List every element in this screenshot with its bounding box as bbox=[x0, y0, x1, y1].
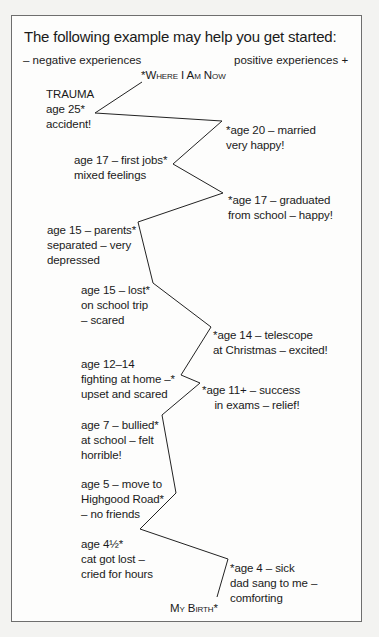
where-i-am-now-label: *Where I Am Now bbox=[141, 68, 226, 83]
event-parents-separated: age 15 – parents* separated – very depre… bbox=[47, 223, 136, 268]
event-fighting-home: age 12–14 fighting at home –* upset and … bbox=[81, 357, 175, 402]
event-exams: *age 11+ – success in exams – relief! bbox=[202, 383, 300, 413]
event-cat-lost: age 4½* cat got lost – cried for hours bbox=[81, 537, 153, 582]
event-bullied: age 7 – bullied* at school – felt horrib… bbox=[81, 418, 159, 463]
event-move-highgood: age 5 – move to Highgood Road* – no frie… bbox=[81, 477, 164, 522]
event-married: *age 20 – married very happy! bbox=[226, 123, 316, 153]
my-birth-label: My Birth* bbox=[170, 601, 218, 616]
event-trauma: TRAUMA age 25* accident! bbox=[46, 87, 94, 132]
event-graduated: *age 17 – graduated from school – happy! bbox=[228, 193, 333, 223]
event-lost-school-trip: age 15 – lost* on school trip – scared bbox=[81, 283, 150, 328]
event-telescope: *age 14 – telescope at Christmas – excit… bbox=[213, 328, 328, 358]
event-first-jobs: age 17 – first jobs* mixed feelings bbox=[74, 153, 167, 183]
event-sick-dad-sang: *age 4 – sick dad sang to me – comfortin… bbox=[230, 561, 317, 606]
